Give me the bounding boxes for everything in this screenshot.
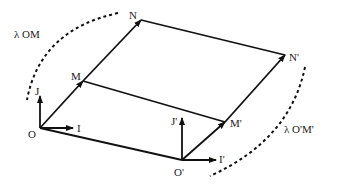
edge-O-M	[40, 81, 83, 128]
label-I2: I'	[219, 153, 225, 165]
label-O2: O'	[174, 166, 184, 178]
label-J2: J'	[171, 115, 177, 127]
parallelogram-diagram: O M N O' M' N' I J I' J' λ OM λ O'M'	[0, 0, 339, 188]
label-N2: N'	[289, 51, 299, 63]
edge-N-N2	[141, 20, 285, 55]
label-lambda-O2M2: λ O'M'	[284, 123, 314, 135]
label-O: O	[28, 128, 36, 140]
edge-O-O2	[40, 128, 182, 160]
label-M: M	[71, 70, 81, 82]
label-I: I	[77, 122, 81, 134]
label-N: N	[129, 9, 137, 21]
edge-M2-N2	[225, 55, 285, 122]
edge-M-N	[83, 20, 141, 81]
label-M2: M'	[230, 117, 242, 129]
label-lambda-OM: λ OM	[14, 28, 40, 40]
edge-M-M2	[83, 81, 225, 122]
label-J: J	[35, 85, 40, 97]
